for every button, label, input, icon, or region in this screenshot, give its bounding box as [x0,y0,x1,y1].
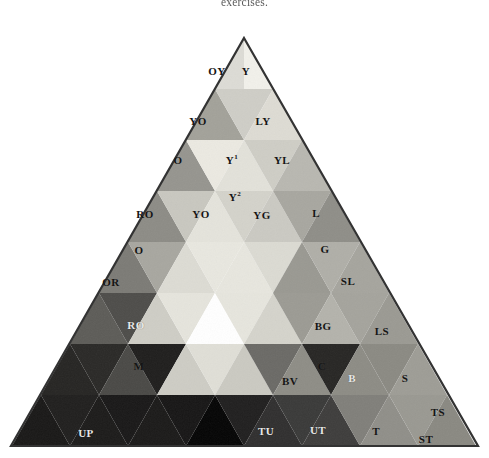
figure-page: exercises. [0,0,489,458]
color-triangle-figure [0,0,489,458]
triangle-cells [11,38,478,446]
paper-grain-overlay [11,38,478,446]
